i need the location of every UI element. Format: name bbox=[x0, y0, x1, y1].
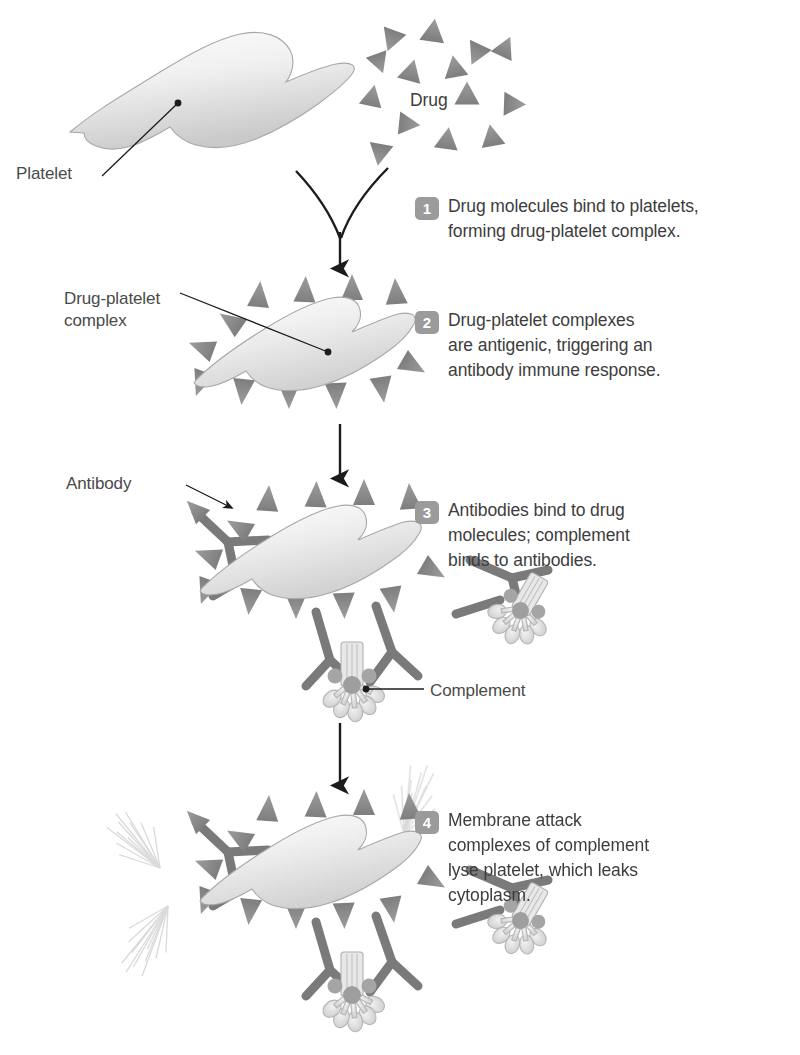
step-2-text: Drug-platelet complexes are antigenic, t… bbox=[448, 308, 660, 383]
step-3-badge: 3 bbox=[415, 501, 439, 524]
platelet-free bbox=[70, 32, 354, 148]
figure-canvas: Platelet Drug Drug-platelet complex Anti… bbox=[0, 0, 800, 1055]
label-drug: Drug bbox=[410, 90, 448, 111]
converging-arrow-icon bbox=[296, 168, 388, 268]
step-4-badge: 4 bbox=[415, 811, 439, 834]
label-drug-platelet-complex: Drug-platelet complex bbox=[64, 288, 160, 332]
step-3: 3 Antibodies bind to drug molecules; com… bbox=[415, 498, 630, 573]
step-1-text: Drug molecules bind to platelets, formin… bbox=[448, 194, 699, 244]
label-antibody: Antibody bbox=[66, 473, 131, 495]
drug-platelet-complex bbox=[185, 274, 430, 409]
label-complement: Complement bbox=[430, 680, 525, 702]
step-1-badge: 1 bbox=[415, 197, 439, 220]
step-2-badge: 2 bbox=[415, 311, 439, 334]
step-4-text: Membrane attack complexes of complement … bbox=[448, 808, 649, 907]
label-platelet: Platelet bbox=[16, 163, 72, 185]
illustration-svg bbox=[0, 0, 800, 1055]
step-3-text: Antibodies bind to drug molecules; compl… bbox=[448, 498, 630, 573]
step-2: 2 Drug-platelet complexes are antigenic,… bbox=[415, 308, 660, 383]
step-4: 4 Membrane attack complexes of complemen… bbox=[415, 808, 649, 907]
step-1: 1 Drug molecules bind to platelets, form… bbox=[415, 194, 699, 244]
